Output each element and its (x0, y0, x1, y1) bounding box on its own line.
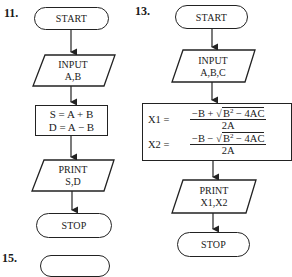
print-node-11: PRINT S,D (38, 161, 108, 191)
print-title: PRINT (200, 185, 229, 197)
input-vars: A,B (65, 71, 81, 83)
x1-sqrt-radicand: B2 − 4AC (222, 107, 265, 119)
x1-denominator: 2A (222, 120, 235, 131)
x1-b: B (223, 108, 230, 119)
print-vars: X1,X2 (201, 197, 228, 209)
problem-number-15: 15. (2, 251, 17, 266)
stop-label: STOP (61, 220, 86, 231)
start-label: START (196, 12, 227, 23)
problem-number-13: 13. (135, 4, 150, 19)
x2-equation: X2 = −B − √B2 − 4AC 2A (148, 133, 266, 156)
quadratic-formula-box-13: X1 = −B + √B2 − 4AC 2A X2 = −B − √B2 − 4… (142, 103, 292, 161)
x2-b: B (223, 133, 230, 144)
x1-equation: X1 = −B + √B2 − 4AC 2A (148, 108, 266, 131)
x2-lhs: X2 = (148, 138, 190, 151)
input-node-13: INPUT A,B,C (178, 51, 248, 82)
x1-num-prefix: −B + (192, 108, 216, 119)
x1-numerator: −B + √B2 − 4AC (190, 108, 266, 120)
problem-number-11: 11. (4, 6, 18, 21)
start-terminal-11: START (34, 7, 109, 30)
stop-terminal-13: STOP (177, 232, 250, 257)
process-box-11: S = A + B D = A − B (35, 105, 108, 136)
process-line-diff: D = A − B (49, 121, 94, 134)
stop-label: STOP (201, 239, 226, 250)
x2-sqrt-radicand: B2 − 4AC (222, 132, 265, 144)
print-vars: S,D (65, 176, 80, 188)
input-title: INPUT (198, 55, 227, 67)
x2-4ac: − 4AC (233, 133, 264, 144)
x2-fraction: −B − √B2 − 4AC 2A (190, 133, 266, 156)
input-node-11: INPUT A,B (38, 56, 108, 86)
x2-num-prefix: −B − (192, 133, 216, 144)
start-label: START (56, 13, 87, 24)
print-title: PRINT (59, 164, 88, 176)
x1-4ac: − 4AC (233, 108, 264, 119)
x1-fraction: −B + √B2 − 4AC 2A (190, 108, 266, 131)
x1-lhs: X1 = (148, 113, 190, 126)
x2-numerator: −B − √B2 − 4AC (190, 133, 266, 145)
input-vars: A,B,C (200, 67, 226, 79)
start-terminal-13: START (175, 5, 248, 29)
stop-terminal-11: STOP (36, 213, 112, 238)
print-node-13: PRINT X1,X2 (178, 181, 250, 213)
input-title: INPUT (58, 59, 87, 71)
start-terminal-15 (40, 255, 110, 277)
process-line-sum: S = A + B (50, 108, 94, 121)
x2-denominator: 2A (222, 145, 235, 156)
